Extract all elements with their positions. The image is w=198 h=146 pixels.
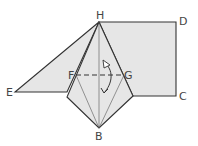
- label-h: H: [96, 9, 104, 22]
- label-g: G: [124, 69, 133, 82]
- origami-diagram: H D C E F G B: [0, 0, 198, 146]
- label-e: E: [6, 86, 13, 99]
- label-f: F: [68, 69, 74, 82]
- label-d: D: [179, 15, 187, 28]
- label-b: B: [95, 130, 103, 143]
- label-c: C: [179, 90, 187, 103]
